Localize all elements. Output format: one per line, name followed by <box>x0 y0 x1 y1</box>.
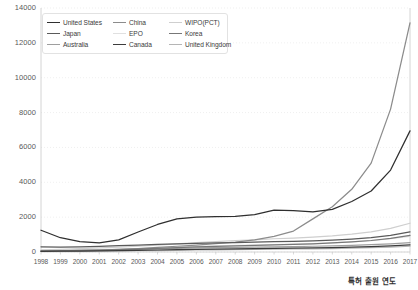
legend-item-label: United States <box>63 19 102 26</box>
legend-color-swatch <box>169 22 182 24</box>
legend-item-united-kingdom[interactable]: United Kingdom <box>169 39 233 50</box>
legend-item-canada[interactable]: Canada <box>113 39 169 50</box>
legend-color-swatch <box>113 44 126 46</box>
legend-item-korea[interactable]: Korea <box>169 28 233 39</box>
legend-item-wipo-pct[interactable]: WIPO(PCT) <box>169 17 233 28</box>
legend-item-china[interactable]: China <box>113 17 169 28</box>
legend-item-label: Australia <box>63 41 88 48</box>
legend-color-swatch <box>169 33 182 35</box>
x-axis-title: 특허 출원 연도 <box>330 275 414 286</box>
legend: United StatesChinaWIPO(PCT)JapanEPOKorea… <box>42 13 228 54</box>
legend-item-united-states[interactable]: United States <box>47 17 113 28</box>
legend-item-label: EPO <box>129 30 143 37</box>
x-tick-label: 2017 <box>397 258 418 266</box>
legend-item-australia[interactable]: Australia <box>47 39 113 50</box>
legend-item-label: China <box>129 19 146 26</box>
legend-item-label: Korea <box>185 30 202 37</box>
legend-color-swatch <box>113 22 126 24</box>
legend-color-swatch <box>47 33 60 35</box>
legend-color-swatch <box>113 33 126 35</box>
legend-item-label: Canada <box>129 41 152 48</box>
legend-grid: United StatesChinaWIPO(PCT)JapanEPOKorea… <box>47 17 223 50</box>
legend-item-label: United Kingdom <box>185 41 231 48</box>
legend-item-epo[interactable]: EPO <box>113 28 169 39</box>
legend-item-japan[interactable]: Japan <box>47 28 113 39</box>
legend-color-swatch <box>169 44 182 46</box>
legend-item-label: WIPO(PCT) <box>185 19 220 26</box>
line-chart: 02000400060008000100001200014000 1998199… <box>0 0 418 290</box>
legend-color-swatch <box>47 22 60 24</box>
legend-item-label: Japan <box>63 30 81 37</box>
legend-color-swatch <box>47 44 60 46</box>
